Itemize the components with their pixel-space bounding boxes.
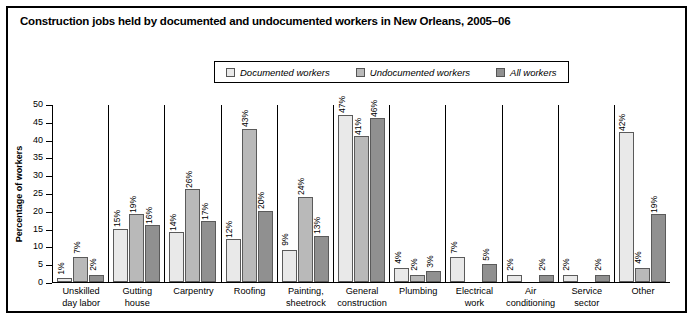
- y-tick-label: 35: [33, 152, 43, 162]
- y-tick-label: 15: [33, 224, 43, 234]
- bar-group: 47%41%46%: [334, 105, 390, 282]
- legend-label: Undocumented workers: [370, 67, 470, 78]
- chart-legend: Documented workersUndocumented workersAl…: [214, 61, 569, 83]
- x-axis-label-line: house: [110, 298, 164, 310]
- y-tick: 5: [46, 265, 52, 266]
- bar-group: 4%2%3%: [390, 105, 446, 282]
- x-axis-line: [52, 282, 670, 283]
- chart-figure: Construction jobs held by documented and…: [0, 0, 693, 319]
- bar: 16%: [145, 225, 160, 282]
- y-tick-label: 50: [33, 99, 43, 109]
- bar-value-label: 2%: [506, 259, 515, 271]
- bar: 4%: [394, 268, 409, 282]
- x-axis-label: Servicesector: [559, 286, 615, 309]
- bar-value-label: 14%: [168, 214, 177, 231]
- y-tick: 30: [46, 176, 52, 177]
- bar: 13%: [314, 236, 329, 282]
- bar: 20%: [258, 211, 273, 282]
- y-tick-label: 10: [33, 241, 43, 251]
- bar: 4%: [635, 268, 650, 282]
- bar-value-label: 17%: [200, 203, 209, 220]
- bar-value-label: 19%: [128, 196, 137, 213]
- bar-value-label: 7%: [72, 241, 81, 253]
- bar-value-label: 7%: [449, 241, 458, 253]
- x-axis-label: Unskilledday labor: [53, 286, 109, 309]
- bar-value-label: 5%: [481, 248, 490, 260]
- bar-value-label: 20%: [257, 192, 266, 209]
- bar-group: 2%2%: [559, 105, 615, 282]
- bar-value-label: 9%: [281, 234, 290, 246]
- bar: 2%: [410, 275, 425, 282]
- bar: 2%: [595, 275, 610, 282]
- bar-group: 2%2%: [503, 105, 559, 282]
- x-axis-label-line: conditioning: [504, 298, 558, 310]
- bar: 5%: [482, 264, 497, 282]
- bar-value-label: 42%: [618, 114, 627, 131]
- y-tick: 50: [46, 105, 52, 106]
- legend-label: All workers: [510, 67, 556, 78]
- bar-value-label: 26%: [184, 171, 193, 188]
- legend-swatch-undocumented: [356, 68, 365, 77]
- x-axis-label-line: General: [335, 286, 389, 298]
- x-axis-label: Roofing: [222, 286, 278, 309]
- y-tick-label: 45: [33, 117, 43, 127]
- x-axis-label-line: Plumbing: [391, 286, 445, 298]
- bar-value-label: 2%: [409, 259, 418, 271]
- bar-value-label: 2%: [594, 259, 603, 271]
- bar-group: 15%19%16%: [109, 105, 165, 282]
- bar-value-label: 15%: [112, 210, 121, 227]
- bar: 26%: [185, 189, 200, 282]
- x-axis-label-line: Gutting: [110, 286, 164, 298]
- y-tick-label: 30: [33, 170, 43, 180]
- bar-group: 14%26%17%: [165, 105, 221, 282]
- y-tick: 0: [46, 283, 52, 284]
- bar: 2%: [89, 275, 104, 282]
- x-axis-label-line: day labor: [54, 298, 108, 310]
- x-axis-label: Guttinghouse: [109, 286, 165, 309]
- bar-value-label: 16%: [144, 207, 153, 224]
- y-tick-label: 40: [33, 135, 43, 145]
- bar: 7%: [73, 257, 88, 282]
- x-axis-label-line: construction: [335, 298, 389, 310]
- bar: 1%: [57, 278, 72, 282]
- bar: 7%: [450, 257, 465, 282]
- x-axis-label-line: sheetrock: [279, 298, 333, 310]
- bar-value-label: 43%: [241, 110, 250, 127]
- bar-value-label: 4%: [634, 252, 643, 264]
- x-axis-label: Other: [615, 286, 671, 309]
- bar-value-label: 46%: [369, 100, 378, 117]
- y-axis-label: Percentage of workers: [14, 105, 26, 283]
- x-axis-label-line: Air: [504, 286, 558, 298]
- bar: 14%: [169, 232, 184, 282]
- bar-value-label: 2%: [538, 259, 547, 271]
- bar: 24%: [298, 197, 313, 282]
- bar-value-label: 13%: [313, 217, 322, 234]
- bar: 15%: [113, 229, 128, 282]
- bar: 17%: [201, 221, 216, 282]
- bar: 9%: [282, 250, 297, 282]
- bar-value-label: 12%: [225, 221, 234, 238]
- legend-item: All workers: [496, 67, 556, 78]
- x-axis-label-line: Service: [560, 286, 614, 298]
- bar: 41%: [354, 136, 369, 282]
- bar: 43%: [242, 129, 257, 282]
- legend-swatch-all: [496, 68, 505, 77]
- x-axis-label-line: Roofing: [223, 286, 277, 298]
- y-tick-label: 0: [38, 277, 43, 287]
- bar-value-label: 2%: [88, 259, 97, 271]
- bar: 2%: [507, 275, 522, 282]
- x-axis-labels: Unskilledday laborGuttinghouseCarpentryR…: [53, 286, 671, 309]
- bar-group: 12%43%20%: [222, 105, 278, 282]
- bar-group: 42%4%19%: [615, 105, 670, 282]
- chart-title: Construction jobs held by documented and…: [20, 15, 510, 27]
- y-tick: 20: [46, 212, 52, 213]
- bar: 46%: [370, 118, 385, 282]
- x-axis-label-line: Other: [616, 286, 670, 298]
- bar-value-label: 2%: [562, 259, 571, 271]
- bar-value-label: 24%: [297, 178, 306, 195]
- y-tick: 25: [46, 194, 52, 195]
- y-tick-label: 20: [33, 206, 43, 216]
- bar: 47%: [338, 115, 353, 282]
- y-tick: 40: [46, 141, 52, 142]
- bar-group: 1%7%2%: [53, 105, 109, 282]
